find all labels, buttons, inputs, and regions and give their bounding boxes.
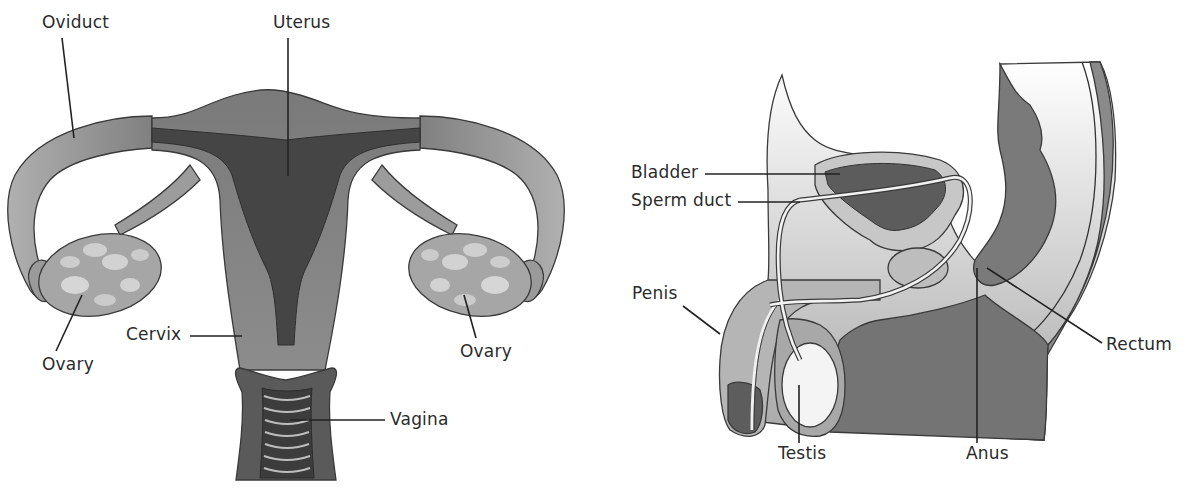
label-cervix: Cervix — [126, 326, 181, 343]
label-penis: Penis — [632, 285, 677, 302]
label-bladder: Bladder — [631, 164, 698, 181]
label-ovary-left: Ovary — [42, 356, 94, 373]
female-reproductive-diagram — [0, 0, 1186, 491]
male-reproductive-diagram — [683, 62, 1116, 443]
label-ovary-right: Ovary — [460, 343, 512, 360]
label-rectum: Rectum — [1106, 336, 1172, 353]
label-sperm-duct: Sperm duct — [631, 192, 731, 209]
testis — [782, 343, 838, 427]
uterus-body — [152, 90, 420, 370]
left-ovary — [31, 223, 169, 327]
vagina — [236, 368, 337, 480]
label-testis: Testis — [778, 445, 826, 462]
label-oviduct: Oviduct — [42, 14, 109, 31]
right-ovary — [401, 223, 539, 327]
label-uterus: Uterus — [273, 14, 330, 31]
label-anus: Anus — [966, 445, 1009, 462]
label-vagina: Vagina — [390, 411, 449, 428]
